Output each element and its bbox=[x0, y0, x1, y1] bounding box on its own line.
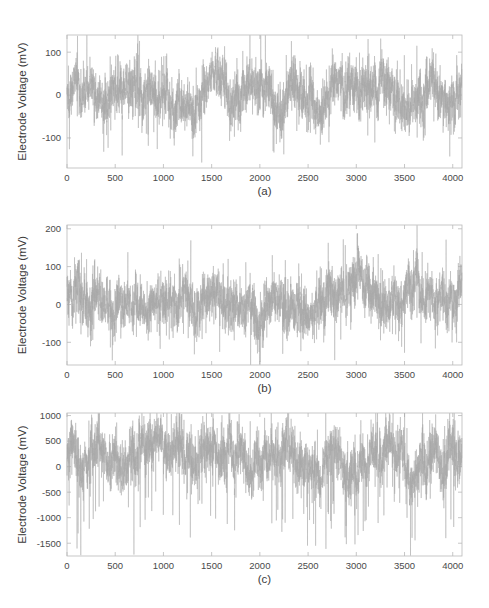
x-tick-label: 500 bbox=[107, 369, 123, 380]
x-tick-label: 1000 bbox=[153, 369, 174, 380]
y-tick-label: 0 bbox=[56, 89, 61, 100]
y-tick-label: -100 bbox=[42, 337, 61, 348]
x-tick-label: 1000 bbox=[153, 172, 174, 183]
x-tick-label: 3500 bbox=[394, 560, 415, 571]
x-tick-label: 2000 bbox=[249, 560, 270, 571]
y-tick-label: 200 bbox=[45, 223, 61, 234]
panel-c: 0500100015002000250030003500400010005000… bbox=[0, 400, 489, 608]
y-axis-title: Electrode Voltage (mV) bbox=[16, 42, 28, 160]
x-tick-label: 3000 bbox=[346, 560, 367, 571]
x-tick-label: 1500 bbox=[201, 172, 222, 183]
x-tick-label: 2500 bbox=[298, 369, 319, 380]
y-tick-label: -100 bbox=[42, 132, 61, 143]
y-axis-title: Electrode Voltage (mV) bbox=[16, 425, 28, 543]
y-tick-label: 0 bbox=[56, 299, 61, 310]
panel-a-plot-group: 050010001500200025003000350040001000-100… bbox=[16, 35, 463, 197]
panel-c-svg: 0500100015002000250030003500400010005000… bbox=[0, 400, 489, 608]
x-tick-label: 500 bbox=[107, 172, 123, 183]
x-tick-label: 2500 bbox=[298, 560, 319, 571]
y-tick-label: 0 bbox=[56, 461, 61, 472]
x-tick-label: 2500 bbox=[298, 172, 319, 183]
y-tick-label: -500 bbox=[42, 487, 61, 498]
y-axis-title: Electrode Voltage (mV) bbox=[16, 236, 28, 354]
x-tick-label: 4000 bbox=[442, 369, 463, 380]
panel-caption: (a) bbox=[257, 185, 271, 197]
x-tick-label: 4000 bbox=[442, 560, 463, 571]
x-tick-label: 0 bbox=[64, 369, 69, 380]
panel-a-svg: 050010001500200025003000350040001000-100… bbox=[0, 0, 489, 200]
y-tick-label: 100 bbox=[45, 47, 61, 58]
y-tick-label: -1000 bbox=[37, 512, 61, 523]
panel-c-plot-group: 0500100015002000250030003500400010005000… bbox=[16, 410, 463, 585]
x-tick-label: 0 bbox=[64, 172, 69, 183]
y-tick-label: 500 bbox=[45, 435, 61, 446]
x-tick-label: 4000 bbox=[442, 172, 463, 183]
y-tick-label: 100 bbox=[45, 261, 61, 272]
x-tick-label: 3000 bbox=[346, 172, 367, 183]
x-tick-label: 3000 bbox=[346, 369, 367, 380]
electrode-trace-b bbox=[67, 225, 462, 364]
x-tick-label: 3500 bbox=[394, 172, 415, 183]
panel-a: 050010001500200025003000350040001000-100… bbox=[0, 0, 489, 200]
electrode-trace-c bbox=[67, 413, 462, 555]
panel-b: 050010001500200025003000350040002001000-… bbox=[0, 200, 489, 400]
y-tick-label: -1500 bbox=[37, 538, 61, 549]
x-tick-label: 2000 bbox=[249, 369, 270, 380]
x-tick-label: 1500 bbox=[201, 369, 222, 380]
x-tick-label: 3500 bbox=[394, 369, 415, 380]
x-tick-label: 0 bbox=[64, 560, 69, 571]
panel-caption: (b) bbox=[257, 382, 271, 394]
electrode-trace-a bbox=[67, 35, 462, 162]
panel-caption: (c) bbox=[258, 573, 272, 585]
x-tick-label: 1500 bbox=[201, 560, 222, 571]
x-tick-label: 1000 bbox=[153, 560, 174, 571]
panel-b-plot-group: 050010001500200025003000350040002001000-… bbox=[16, 223, 463, 394]
x-tick-label: 500 bbox=[107, 560, 123, 571]
x-tick-label: 2000 bbox=[249, 172, 270, 183]
figure-container: 050010001500200025003000350040001000-100… bbox=[0, 0, 489, 608]
panel-b-svg: 050010001500200025003000350040002001000-… bbox=[0, 200, 489, 400]
y-tick-label: 1000 bbox=[40, 410, 61, 421]
